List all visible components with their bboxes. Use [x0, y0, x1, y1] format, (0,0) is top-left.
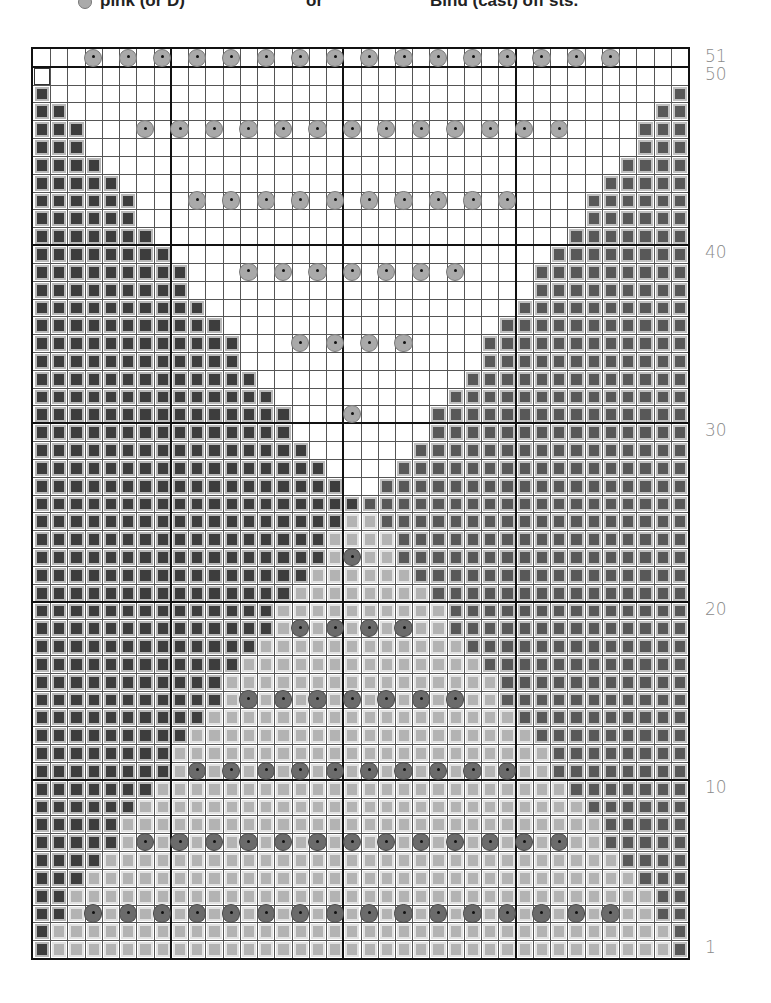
chart-cell-dark — [69, 211, 83, 226]
chart-cell-medium — [397, 461, 411, 476]
chart-cell-medium — [466, 497, 480, 512]
chart-cell-dark — [121, 461, 135, 476]
chart-cell-dark — [35, 835, 49, 850]
chart-cell-medium — [673, 604, 687, 619]
chart-cell-light — [173, 746, 187, 761]
grid-line — [33, 281, 688, 282]
chart-cell-medium — [621, 693, 635, 708]
chart-cell-medium — [500, 639, 514, 654]
chart-cell-light — [466, 942, 480, 957]
chart-cell-dark — [104, 710, 118, 725]
chart-cell-light — [190, 853, 204, 868]
chart-cell-medium — [656, 514, 670, 529]
bead-icon — [463, 762, 481, 780]
row-label-51: 51 — [705, 48, 727, 65]
chart-cell-light — [345, 675, 359, 690]
chart-cell-light — [156, 782, 170, 797]
legend-label-pink: pink (or D) — [100, 0, 185, 10]
chart-cell-light — [466, 800, 480, 815]
chart-cell-medium — [431, 568, 445, 583]
bead-icon — [239, 690, 257, 708]
chart-cell-light — [259, 675, 273, 690]
chart-cell-medium — [604, 746, 618, 761]
chart-cell-medium — [604, 318, 618, 333]
chart-cell-dark — [173, 318, 187, 333]
chart-cell-dark — [104, 443, 118, 458]
chart-cell-light — [535, 853, 549, 868]
chart-cell-dark — [35, 194, 49, 209]
chart-cell-medium — [656, 639, 670, 654]
chart-cell-dark — [190, 354, 204, 369]
chart-cell-light — [449, 924, 463, 939]
chart-cell-medium — [431, 425, 445, 440]
chart-cell-medium — [638, 550, 652, 565]
chart-cell-dark — [87, 728, 101, 743]
chart-cell-light — [328, 568, 342, 583]
chart-cell-medium — [397, 550, 411, 565]
chart-cell-dark — [121, 710, 135, 725]
chart-cell-light — [225, 835, 239, 850]
chart-cell-light — [173, 800, 187, 815]
chart-cell-medium — [431, 514, 445, 529]
chart-cell-medium — [638, 514, 652, 529]
chart-cell-dark — [156, 461, 170, 476]
chart-cell-dark — [35, 514, 49, 529]
chart-cell-medium — [483, 532, 497, 547]
grid-line — [33, 762, 688, 763]
chart-cell-medium — [449, 586, 463, 601]
grid-line — [33, 120, 688, 121]
chart-cell-dark — [138, 568, 152, 583]
chart-cell-medium — [621, 407, 635, 422]
chart-cell-dark — [35, 782, 49, 797]
chart-cell-dark — [69, 800, 83, 815]
chart-cell-dark — [87, 194, 101, 209]
chart-cell-dark — [35, 764, 49, 779]
chart-cell-dark — [276, 514, 290, 529]
chart-cell-dark — [52, 746, 66, 761]
chart-cell-medium — [638, 140, 652, 155]
chart-cell-dark — [173, 265, 187, 280]
chart-cell-dark — [242, 532, 256, 547]
chart-cell-dark — [35, 104, 49, 119]
chart-cell-light — [604, 942, 618, 957]
grid-line — [619, 49, 620, 958]
chart-cell-light — [328, 942, 342, 957]
chart-cell-light — [259, 657, 273, 672]
chart-cell-medium — [569, 764, 583, 779]
chart-cell-medium — [587, 372, 601, 387]
chart-cell-dark — [52, 372, 66, 387]
chart-cell-medium — [621, 568, 635, 583]
chart-cell-dark — [69, 853, 83, 868]
grid-line — [136, 49, 137, 958]
chart-cell-dark — [69, 354, 83, 369]
grid-line — [33, 227, 688, 228]
chart-cell-dark — [294, 568, 308, 583]
chart-cell-dark — [190, 532, 204, 547]
chart-cell-light — [466, 853, 480, 868]
chart-cell-dark — [121, 497, 135, 512]
grid-line — [33, 174, 688, 175]
chart-cell-medium — [431, 461, 445, 476]
chart-cell-light — [552, 942, 566, 957]
chart-cell-dark — [52, 425, 66, 440]
chart-cell-dark — [173, 710, 187, 725]
chart-cell-medium — [587, 710, 601, 725]
bead-icon — [274, 690, 292, 708]
chart-cell-dark — [35, 817, 49, 832]
chart-cell-light — [621, 889, 635, 904]
bead-icon — [446, 690, 464, 708]
chart-cell-light — [345, 817, 359, 832]
chart-cell-light — [207, 746, 221, 761]
chart-cell-medium — [656, 853, 670, 868]
chart-cell-light — [121, 924, 135, 939]
chart-cell-medium — [587, 657, 601, 672]
chart-cell-dark — [69, 746, 83, 761]
chart-cell-light — [69, 889, 83, 904]
chart-cell-light — [535, 782, 549, 797]
chart-cell-light — [294, 639, 308, 654]
chart-cell-medium — [569, 336, 583, 351]
chart-cell-light — [311, 639, 325, 654]
chart-cell-light — [242, 782, 256, 797]
chart-cell-medium — [483, 550, 497, 565]
chart-cell-light — [121, 889, 135, 904]
